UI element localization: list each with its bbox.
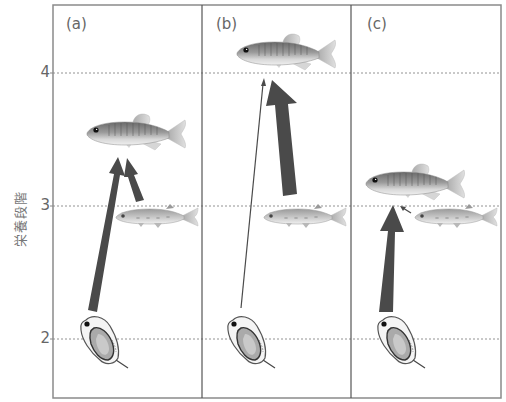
large-fish-icon xyxy=(366,164,465,200)
zooplankton-icon xyxy=(378,317,425,368)
flow-arrow-small-fish-to-large-fish xyxy=(266,80,297,196)
zooplankton-icon xyxy=(228,317,275,368)
flow-arrow-zooplankton-to-large-fish xyxy=(379,205,404,312)
trophic-level-figure: 栄養段階 4 3 2 (a) (b) (c) xyxy=(0,0,506,402)
flow-arrow-small-fish-to-large-fish xyxy=(124,158,144,202)
panel-c xyxy=(366,164,497,368)
small-fish-icon xyxy=(264,204,346,228)
flow-arrow-small-fish-to-large-fish xyxy=(400,206,411,213)
small-fish-icon xyxy=(116,204,198,228)
small-fish-icon xyxy=(415,204,497,228)
diagram-canvas xyxy=(0,0,506,402)
flow-arrow-zooplankton-to-large-fish xyxy=(241,78,266,308)
panel-a xyxy=(81,114,198,368)
large-fish-icon xyxy=(237,34,336,70)
panel-b xyxy=(228,34,346,368)
flow-arrow-zooplankton-to-large-fish xyxy=(88,157,125,312)
large-fish-icon xyxy=(87,114,186,150)
zooplankton-icon xyxy=(81,317,128,368)
